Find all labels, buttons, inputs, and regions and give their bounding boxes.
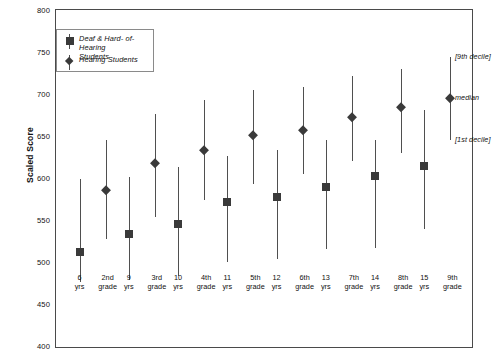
deaf-hard-of-hearing-median-marker xyxy=(371,172,379,180)
diamond-marker-icon xyxy=(63,55,77,69)
x-axis-label-grade: 9thgrade xyxy=(432,274,472,291)
x-label-age-unit: yrs xyxy=(272,282,282,291)
x-label-age-unit: yrs xyxy=(173,282,183,291)
annotation-9th-decile: [9th decile] xyxy=(455,52,491,61)
deaf-hard-of-hearing-median-marker xyxy=(76,248,84,256)
x-label-age-unit: yrs xyxy=(370,282,380,291)
y-tick-label: 500 xyxy=(16,258,50,267)
deaf-hard-of-hearing-median-marker xyxy=(125,230,133,238)
square-marker-icon xyxy=(63,34,77,48)
x-label-age-unit: yrs xyxy=(75,282,85,291)
y-tick-label: 650 xyxy=(16,132,50,141)
legend: Deaf & Hard- of-Hearing Students Hearing… xyxy=(56,29,154,72)
whisker-line xyxy=(129,177,130,279)
y-tick-label: 450 xyxy=(16,300,50,309)
y-tick-label: 600 xyxy=(16,174,50,183)
deaf-hard-of-hearing-median-marker xyxy=(174,220,182,228)
y-tick-label: 400 xyxy=(16,342,50,351)
whisker-line xyxy=(326,140,327,248)
annotation-median: median xyxy=(455,93,479,102)
x-label-age-unit: yrs xyxy=(419,282,429,291)
whisker-line xyxy=(80,179,81,282)
deaf-hard-of-hearing-median-marker xyxy=(223,198,231,206)
y-tick-label: 700 xyxy=(16,90,50,99)
annotation-1st-decile: [1st decile] xyxy=(455,135,491,144)
x-label-age-unit: yrs xyxy=(321,282,331,291)
y-tick-label: 550 xyxy=(16,216,50,225)
x-label-grade-unit: grade xyxy=(443,282,462,291)
y-axis-title: Scaled Score xyxy=(25,95,35,215)
deaf-hard-of-hearing-median-marker xyxy=(420,162,428,170)
deaf-hard-of-hearing-median-marker xyxy=(322,183,330,191)
whisker-line xyxy=(375,140,376,248)
x-label-age-unit: yrs xyxy=(222,282,232,291)
deaf-hard-of-hearing-median-marker xyxy=(273,193,281,201)
y-tick-label: 800 xyxy=(16,6,50,15)
whisker-line xyxy=(227,156,228,262)
legend-label-hearing: Hearing Students xyxy=(77,55,138,64)
legend-label-deaf-line1: Deaf & Hard- of-Hearing xyxy=(79,34,134,52)
x-label-age-unit: yrs xyxy=(124,282,134,291)
whisker-line xyxy=(277,150,278,259)
scaled-score-chart: Scaled Score 800750700650600550500450400… xyxy=(0,0,500,359)
legend-item-hearing: Hearing Students xyxy=(63,55,138,69)
y-tick-label: 750 xyxy=(16,48,50,57)
